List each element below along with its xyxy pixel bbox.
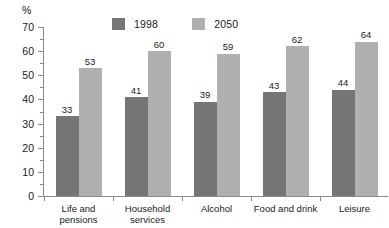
y-axis-tick-label: 70 [14,22,34,33]
y-axis-tick-label: 10 [14,167,34,178]
bar-rect [332,90,355,196]
y-axis-tick-minor [40,184,43,185]
x-axis-category-label-line: services [113,214,182,225]
bar-rect [79,68,102,196]
y-axis-tick-label: 50 [14,70,34,81]
bar-1998-leisure: 44 [332,27,355,196]
y-axis-line [43,27,44,196]
bar-value-label: 39 [200,90,211,100]
bar-2050-household-services: 60 [148,27,171,196]
bar-value-label: 33 [62,105,73,115]
x-axis-category-label: Food and drink [251,203,320,214]
y-axis-tick-label: 0 [14,191,34,202]
x-axis-separator-tick [44,196,45,201]
bar-rect [125,97,148,196]
x-axis-separator-tick [320,196,321,201]
legend-swatch-1998 [112,18,125,30]
bar-rect [217,54,240,196]
bar-rect [148,51,171,196]
x-axis-category-label-line: Life and [44,203,113,214]
bar-value-label: 59 [223,42,234,52]
x-axis-line [43,196,388,197]
y-axis-tick-major [38,99,43,100]
y-axis-tick-minor [40,39,43,40]
bar-rect [263,92,286,196]
y-axis-unit-label: % [22,4,31,16]
x-axis-category-label: Householdservices [113,203,182,225]
y-axis-tick-minor [40,160,43,161]
x-axis-category-label: Alcohol [182,203,251,214]
bar-value-label: 53 [85,57,96,67]
bar-1998-food-and-drink: 43 [263,27,286,196]
y-axis-tick-label: 40 [14,94,34,105]
y-axis-tick-label: 20 [14,143,34,154]
y-axis-tick-major [38,124,43,125]
bar-value-label: 44 [338,78,349,88]
x-axis-category-label: Life andpensions [44,203,113,225]
y-axis-tick-minor [40,87,43,88]
bar-rect [194,102,217,196]
bar-2050-leisure: 64 [355,27,378,196]
bar-value-label: 41 [131,86,142,96]
bar-1998-life-and-pensions: 33 [56,27,79,196]
x-axis-category-label-line: Household [113,203,182,214]
y-axis-tick-major [38,196,43,197]
bar-value-label: 64 [361,30,372,40]
bar-value-label: 60 [154,40,165,50]
y-axis-tick-minor [40,63,43,64]
y-axis-tick-minor [40,136,43,137]
x-axis-category-label-line: Food and drink [251,203,320,214]
bar-value-label: 62 [292,35,303,45]
x-axis-separator-tick [113,196,114,201]
bar-value-label: 43 [269,81,280,91]
x-axis-category-label-line: pensions [44,214,113,225]
bar-2050-food-and-drink: 62 [286,27,309,196]
x-axis-separator-tick [182,196,183,201]
bar-rect [355,42,378,197]
y-axis-tick-label: 60 [14,46,34,57]
bar-rect [56,116,79,196]
x-axis-category-label-line: Alcohol [182,203,251,214]
bar-1998-household-services: 41 [125,27,148,196]
y-axis-tick-minor [40,112,43,113]
bar-rect [286,46,309,196]
y-axis-tick-major [38,148,43,149]
x-axis-category-label-line: Leisure [320,203,389,214]
bar-2050-alcohol: 59 [217,27,240,196]
y-axis-tick-major [38,172,43,173]
bar-chart: 1998 2050 % 0102030405060703353Life andp… [0,0,389,228]
x-axis-separator-tick [251,196,252,201]
y-axis-tick-label: 30 [14,119,34,130]
y-axis-tick-major [38,51,43,52]
bar-2050-life-and-pensions: 53 [79,27,102,196]
bar-1998-alcohol: 39 [194,27,217,196]
x-axis-category-label: Leisure [320,203,389,214]
y-axis-tick-major [38,75,43,76]
y-axis-tick-major [38,27,43,28]
